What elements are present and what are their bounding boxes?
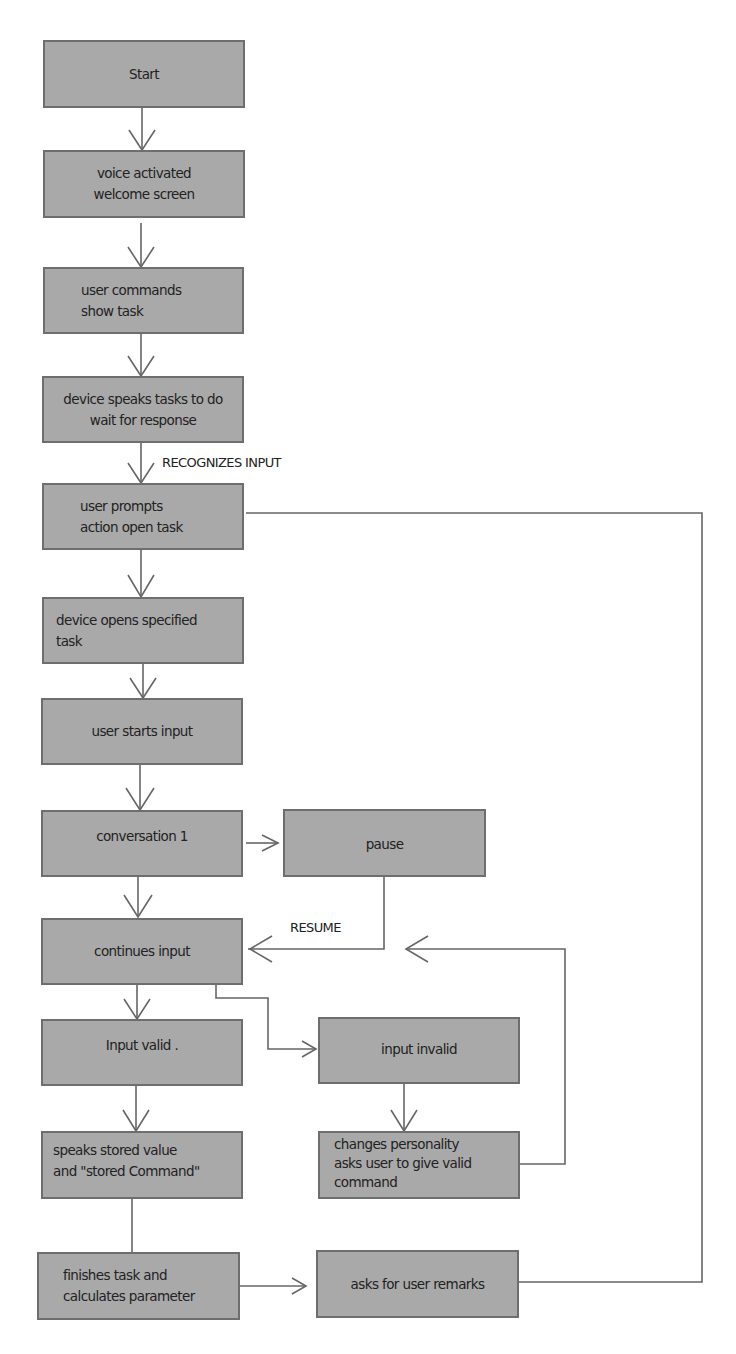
node-asks-user-remarks-label: asks for user remarks [351, 1274, 485, 1295]
node-pause-label: pause [366, 834, 404, 855]
node-start-label: Start [129, 64, 159, 85]
node-device-opens-task: device opens specified task [42, 597, 244, 664]
node-changes-personality: changes personality asks user to give va… [318, 1131, 520, 1199]
node-speaks-stored-value: speaks stored value and "stored Command" [41, 1131, 243, 1199]
node-user-prompts-label: user prompts action open task [80, 496, 183, 538]
node-welcome-screen: voice activated welcome screen [43, 150, 245, 218]
node-continues-input: continues input [41, 918, 243, 985]
node-pause: pause [283, 809, 486, 877]
node-user-commands: user commands show task [43, 267, 244, 334]
node-conversation-1-label: conversation 1 [96, 826, 188, 847]
node-changes-personality-label: changes personality asks user to give va… [334, 1135, 471, 1192]
edge-label-recognizes-input: RECOGNIZES INPUT [162, 455, 281, 470]
node-user-starts-input-label: user starts input [91, 721, 192, 742]
node-continues-input-label: continues input [94, 941, 190, 962]
node-start: Start [43, 40, 245, 108]
node-asks-user-remarks: asks for user remarks [316, 1250, 519, 1318]
flowchart: Start voice activated welcome screen use… [0, 0, 736, 1354]
node-input-valid-label: Input valid . [106, 1035, 178, 1056]
node-device-speaks-label: device speaks tasks to do wait for respo… [63, 389, 222, 431]
node-input-invalid: input invalid [318, 1017, 520, 1084]
node-finishes-task: finishes task and calculates parameter [37, 1252, 240, 1320]
node-conversation-1: conversation 1 [41, 810, 243, 877]
node-user-starts-input: user starts input [41, 698, 243, 765]
node-user-commands-label: user commands show task [81, 280, 181, 322]
node-welcome-screen-label: voice activated welcome screen [93, 163, 194, 205]
node-speaks-stored-value-label: speaks stored value and "stored Command" [53, 1140, 200, 1182]
node-device-speaks: device speaks tasks to do wait for respo… [42, 376, 244, 443]
node-finishes-task-label: finishes task and calculates parameter [63, 1265, 195, 1307]
node-device-opens-task-label: device opens specified task [56, 610, 197, 652]
node-input-valid: Input valid . [41, 1019, 243, 1086]
edge-label-resume: RESUME [290, 920, 341, 935]
node-input-invalid-label: input invalid [381, 1039, 457, 1060]
node-user-prompts: user prompts action open task [42, 483, 244, 550]
